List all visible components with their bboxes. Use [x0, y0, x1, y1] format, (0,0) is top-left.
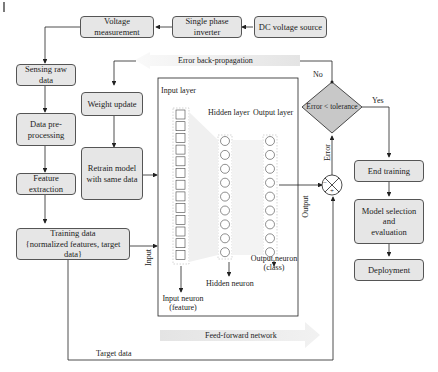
input-neuron-label: Input neuron(feature)	[160, 294, 206, 312]
end-training-box: End training	[354, 160, 424, 182]
retrain-label-2: with same data	[87, 174, 138, 185]
output-neuron-label-1: Output neuron	[244, 254, 304, 263]
dc-voltage-source-box: DC voltage source	[254, 16, 327, 38]
neuron	[221, 234, 230, 243]
sensing-raw-data-box: Sensing raw data	[16, 64, 76, 86]
input-neuron	[176, 169, 185, 178]
input-arrow-label: Input	[144, 246, 153, 270]
end-training-label: End training	[368, 166, 410, 177]
neuron	[221, 137, 230, 146]
input-neuron	[176, 250, 185, 259]
input-layer-label: Input layer	[161, 86, 196, 95]
input-neuron	[176, 122, 185, 131]
neuron	[266, 137, 275, 146]
plus-sign: +	[330, 187, 334, 195]
training-data-label-1: Training data	[50, 228, 95, 239]
hidden-layer-nodes	[221, 137, 230, 257]
yes-label: Yes	[372, 96, 384, 105]
feature-extraction-box: Feature extraction	[16, 173, 76, 195]
sensing-raw-data-label: Sensing raw data	[17, 64, 75, 85]
deployment-box: Deployment	[354, 259, 424, 281]
output-layer-label: Output layer	[253, 108, 293, 117]
error-arrow-label: Error	[323, 140, 332, 166]
input-neuron	[176, 157, 185, 166]
dc-voltage-source-label: DC voltage source	[259, 22, 322, 33]
neuron	[266, 164, 275, 173]
neuron	[221, 192, 230, 201]
neuron	[266, 234, 275, 243]
data-preprocessing-label-2: processing	[28, 130, 64, 141]
input-neuron	[176, 145, 185, 154]
weight-update-box: Weight update	[81, 92, 143, 116]
model-selection-label-3: evaluation	[371, 227, 406, 238]
neuron	[221, 220, 230, 229]
weight-update-label: Weight update	[87, 99, 136, 110]
model-selection-label-2: and	[383, 216, 395, 227]
feature-extraction-label: Feature extraction	[17, 173, 75, 194]
output-neuron-label-2: (class)	[244, 263, 304, 272]
neuron	[266, 220, 275, 229]
input-neuron	[176, 192, 185, 201]
input-neuron	[176, 180, 185, 189]
neuron	[221, 150, 230, 159]
target-data-label: Target data	[96, 349, 132, 358]
input-neuron	[176, 215, 185, 224]
hidden-neuron-label: Hidden neuron	[206, 279, 254, 288]
decision-label: Error < tolerance	[303, 102, 361, 111]
input-neuron	[176, 133, 185, 142]
input-neuron	[176, 227, 185, 236]
neuron	[221, 178, 230, 187]
output-layer-nodes	[266, 137, 275, 257]
neuron	[221, 206, 230, 215]
error-backprop-label: Error back-propagation	[178, 56, 253, 65]
input-neuron	[176, 239, 185, 248]
training-data-label-2: {normalized features, target data}	[17, 239, 129, 260]
single-phase-inverter-label: Single phase inverter	[173, 16, 241, 37]
feed-forward-label: Feed-forward network	[205, 331, 277, 340]
neuron	[221, 164, 230, 173]
training-data-box: Training data{normalized features, targe…	[16, 228, 130, 260]
single-phase-inverter-box: Single phase inverter	[172, 16, 242, 38]
output-arrow-label: Output	[301, 192, 310, 222]
voltage-measurement-label: Voltage measurement	[81, 16, 153, 37]
retrain-label-1: Retrain model	[88, 163, 136, 174]
data-preprocessing-label-1: Data pre-	[30, 119, 62, 130]
input-neuron-label-2: (feature)	[160, 303, 206, 312]
minus-sign: −	[323, 179, 327, 187]
neuron	[266, 178, 275, 187]
output-neuron-label: Output neuron(class)	[244, 254, 304, 272]
model-selection-box: Model selectionandevaluation	[354, 199, 424, 244]
neuron	[266, 192, 275, 201]
input-neuron	[176, 110, 185, 119]
data-preprocessing-box: Data pre-processing	[16, 113, 76, 146]
voltage-measurement-box: Voltage measurement	[80, 16, 154, 38]
neuron	[266, 150, 275, 159]
input-neuron-label-1: Input neuron	[160, 294, 206, 303]
hidden-layer-label: Hidden layer	[208, 108, 250, 117]
retrain-model-box: Retrain modelwith same data	[81, 147, 143, 200]
input-neuron	[176, 204, 185, 213]
model-selection-label-1: Model selection	[362, 206, 417, 217]
deployment-label: Deployment	[368, 265, 410, 276]
neuron	[221, 248, 230, 257]
no-label: No	[313, 70, 323, 79]
neuron	[266, 206, 275, 215]
